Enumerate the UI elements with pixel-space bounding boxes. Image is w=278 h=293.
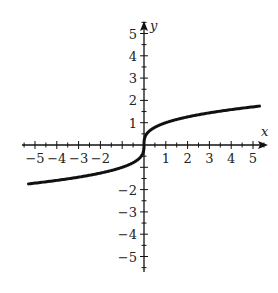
x-tick-label: 4 <box>227 151 235 166</box>
y-axis-label: y <box>149 18 158 33</box>
x-tick-label: 5 <box>249 151 257 166</box>
x-tick-label: −5 <box>25 151 44 166</box>
y-tick-label: 3 <box>129 71 137 86</box>
x-tick-label: 2 <box>183 151 191 166</box>
y-tick-label: 2 <box>129 93 137 108</box>
y-tick-label: 5 <box>129 27 137 42</box>
x-tick-label: −4 <box>47 151 66 166</box>
y-tick-label: −5 <box>118 250 137 265</box>
y-tick-label: −4 <box>118 227 137 242</box>
x-tick-label: −2 <box>91 151 110 166</box>
x-tick-label: 3 <box>205 151 213 166</box>
y-tick-label: 1 <box>129 116 137 131</box>
y-tick-label: −3 <box>118 205 137 220</box>
x-tick-label: −3 <box>69 151 88 166</box>
y-tick-label: −2 <box>118 183 137 198</box>
x-tick-label: 1 <box>162 151 170 166</box>
cube-root-graph: −5−4−3−212345−5−4−3−212345 x y <box>0 0 278 293</box>
x-axis-label: x <box>261 124 269 139</box>
y-tick-label: 4 <box>129 49 137 64</box>
